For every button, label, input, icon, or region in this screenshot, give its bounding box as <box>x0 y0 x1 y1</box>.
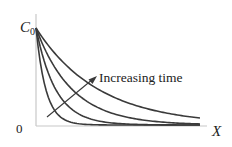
zero-label: 0 <box>16 121 23 136</box>
c0-label: C0 <box>20 19 35 37</box>
concentration-profile-chart: C0 0 X Increasing time <box>0 0 232 147</box>
increasing-time-annotation: Increasing time <box>99 70 183 85</box>
x-axis-label: X <box>211 123 222 139</box>
increasing-time-arrow <box>47 76 97 117</box>
